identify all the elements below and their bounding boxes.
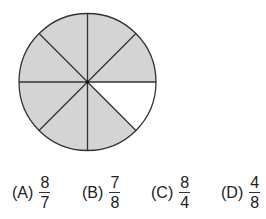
answer-choices: (A) 87 (B) 78 (C) 84 (D) 48 [0, 174, 266, 214]
choice-a[interactable]: (A) 87 [12, 174, 50, 211]
fraction-bar [249, 192, 260, 193]
fraction: 84 [179, 174, 190, 211]
choice-label: (D) [221, 184, 243, 202]
fraction-bar [179, 192, 190, 193]
choice-b[interactable]: (B) 78 [82, 174, 120, 211]
denominator: 8 [110, 194, 119, 211]
fraction-bar [109, 192, 120, 193]
fraction: 87 [39, 174, 50, 211]
fraction-circle-diagram [0, 0, 266, 160]
choice-label: (C) [151, 184, 173, 202]
denominator: 4 [180, 194, 189, 211]
choice-label: (A) [12, 184, 33, 202]
numerator: 4 [250, 174, 259, 191]
denominator: 8 [250, 194, 259, 211]
choice-label: (B) [82, 184, 103, 202]
numerator: 8 [180, 174, 189, 191]
fraction-bar [39, 192, 50, 193]
choice-d[interactable]: (D) 48 [221, 174, 260, 211]
numerator: 8 [40, 174, 49, 191]
center-point [86, 80, 89, 83]
fraction: 78 [109, 174, 120, 211]
choice-c[interactable]: (C) 84 [151, 174, 190, 211]
fraction: 48 [249, 174, 260, 211]
numerator: 7 [110, 174, 119, 191]
denominator: 7 [40, 194, 49, 211]
